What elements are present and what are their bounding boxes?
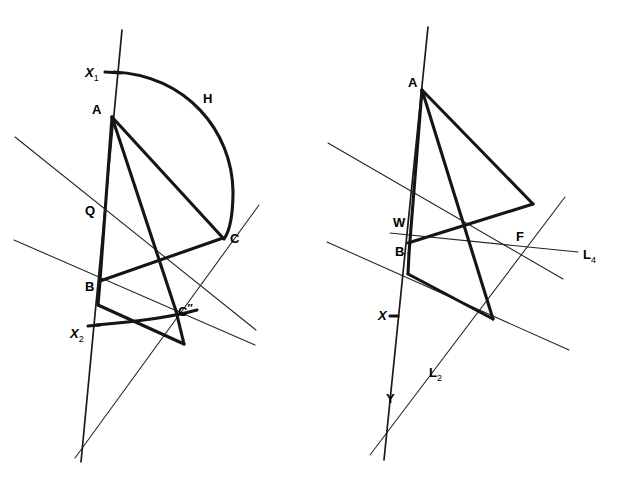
label-x-right: X [377,308,388,323]
label-a-right: A [408,75,418,90]
left-segment-ac [112,117,223,238]
right-segment-ab [409,90,422,253]
label-l2: L2 [429,365,442,383]
right-thin-line-l4 [390,233,578,252]
label-w: W [393,215,406,230]
left-segment-b-down [98,281,100,305]
geometry-figure-canvas: X1 A H Q C B C″ X2 A W F [0,0,618,481]
label-c: C [230,231,240,246]
right-figure: A W F L4 B X L2 Y [327,27,596,460]
label-a-left: A [92,102,102,117]
label-b-left: B [85,279,94,294]
left-segment-a-cpp [112,117,176,311]
left-thin-line-2 [14,240,255,345]
label-l4: L4 [583,247,596,265]
arc-h [114,72,233,239]
label-h: H [203,91,212,106]
right-segment-g-w [408,204,533,243]
label-y: Y [386,391,395,406]
left-segment-ab [100,117,112,281]
label-f: F [516,229,524,244]
left-segment-bc [100,238,223,281]
label-c-double-prime: C″ [178,302,193,319]
right-segment-b-down [408,253,409,274]
left-figure: X1 A H Q C B C″ X2 [14,30,259,462]
label-b-right: B [395,244,404,259]
label-x1: X1 [84,65,99,83]
label-q: Q [85,203,95,218]
label-x2: X2 [69,326,84,344]
